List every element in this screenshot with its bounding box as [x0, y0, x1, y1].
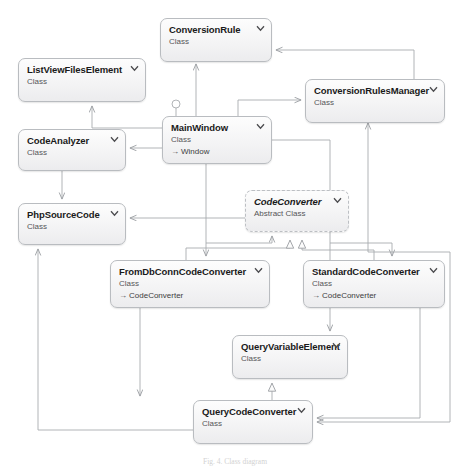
edge-inherit-standard-codeconverter: [302, 240, 374, 260]
inherits-arrow-icon: →: [119, 291, 127, 300]
class-title: ListViewFilesElement: [27, 64, 138, 75]
uml-class-diagram-canvas: ConversionRule Class ListViewFilesElemen…: [0, 0, 470, 467]
class-box-code-analyzer[interactable]: CodeAnalyzer Class: [18, 129, 126, 171]
class-stereotype: Class: [169, 36, 264, 47]
class-stereotype: Abstract Class: [254, 208, 341, 219]
edge-mainwindow-listviewfileselement: [92, 106, 162, 128]
chevron-down-icon[interactable]: [332, 341, 341, 350]
class-title: FromDbConnCodeConverter: [119, 266, 262, 277]
class-box-query-variable-element[interactable]: QueryVariableElement Class: [232, 335, 348, 379]
class-stereotype: Class: [312, 278, 437, 289]
inherits-arrow-icon: →: [171, 147, 179, 156]
class-stereotype: Class: [119, 278, 262, 289]
class-base-type: →CodeConverter: [312, 290, 437, 301]
class-box-list-view-files-element[interactable]: ListViewFilesElement Class: [18, 58, 146, 102]
class-title: CodeAnalyzer: [27, 135, 118, 146]
class-box-php-source-code[interactable]: PhpSourceCode Class: [18, 203, 126, 245]
class-base-type: →CodeConverter: [119, 290, 262, 301]
class-stereotype: Class: [241, 353, 340, 364]
edge-conversionrulesmanager-conversionrule: [276, 50, 414, 79]
lollipop-interface-icon: [172, 100, 180, 116]
chevron-down-icon[interactable]: [254, 266, 263, 275]
chevron-down-icon[interactable]: [256, 122, 265, 131]
edge-mainwindow-conversionrulesmanager: [238, 100, 301, 116]
class-title: QueryVariableElement: [241, 341, 340, 352]
edge-mainwindow-bus-codeconverter: [206, 236, 272, 243]
figure-caption: Fig. 4. Class diagram: [0, 457, 470, 466]
chevron-down-icon[interactable]: [130, 64, 139, 73]
class-box-code-converter[interactable]: CodeConverter Abstract Class: [245, 190, 349, 232]
class-box-conversion-rule[interactable]: ConversionRule Class: [160, 18, 272, 62]
chevron-down-icon[interactable]: [429, 85, 438, 94]
class-box-query-code-converter[interactable]: QueryCodeConverter Class: [193, 400, 313, 444]
chevron-down-icon[interactable]: [256, 24, 265, 33]
class-stereotype: Class: [202, 418, 305, 429]
class-stereotype: Class: [27, 221, 118, 232]
class-title: QueryCodeConverter: [202, 406, 305, 417]
class-box-from-db-conn-code-converter[interactable]: FromDbConnCodeConverter Class →CodeConve…: [110, 260, 270, 308]
class-box-conversion-rules-manager[interactable]: ConversionRulesManager Class: [305, 79, 445, 123]
class-title: CodeConverter: [254, 196, 341, 207]
edge-mainwindow-standardcodeconverter: [330, 243, 392, 256]
chevron-down-icon[interactable]: [333, 196, 342, 205]
inherits-arrow-icon: →: [312, 291, 320, 300]
class-box-standard-code-converter[interactable]: StandardCodeConverter Class →CodeConvert…: [303, 260, 445, 308]
chevron-down-icon[interactable]: [110, 135, 119, 144]
chevron-down-icon[interactable]: [429, 266, 438, 275]
class-title: PhpSourceCode: [27, 209, 118, 220]
class-stereotype: Class: [27, 147, 118, 158]
class-stereotype: Class: [171, 134, 264, 145]
class-title: MainWindow: [171, 122, 264, 133]
class-stereotype: Class: [27, 76, 138, 87]
edge-inherit-fromdbconn-codeconverter: [186, 240, 290, 260]
class-title: StandardCodeConverter: [312, 266, 437, 277]
chevron-down-icon[interactable]: [110, 209, 119, 218]
class-title: ConversionRule: [169, 24, 264, 35]
class-title: ConversionRulesManager: [314, 85, 437, 96]
class-box-main-window[interactable]: MainWindow Class →Window: [162, 116, 272, 164]
chevron-down-icon[interactable]: [297, 406, 306, 415]
class-stereotype: Class: [314, 97, 437, 108]
class-base-type: →Window: [171, 146, 264, 157]
